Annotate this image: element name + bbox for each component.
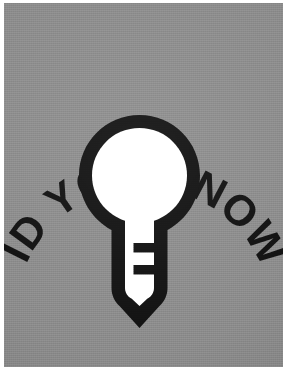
bulb-glass [92, 128, 187, 223]
bulb-base-interior [125, 210, 154, 306]
poster-panel: DID YOU KNOW? [4, 3, 283, 367]
bulb-thread-bar-1 [134, 243, 157, 253]
lightbulb-icon [79, 115, 200, 328]
did-you-know-poster: DID YOU KNOW? [0, 0, 287, 371]
bulb-thread-bar-2 [134, 265, 157, 275]
poster-artwork: DID YOU KNOW? [4, 3, 283, 367]
